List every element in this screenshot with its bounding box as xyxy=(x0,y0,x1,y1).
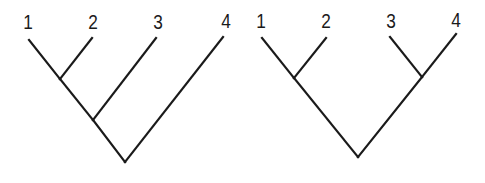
right-tree-taxon-label-4: 4 xyxy=(451,9,461,30)
right-tree-taxon-label-3: 3 xyxy=(386,10,396,31)
tree-lines-canvas xyxy=(0,0,485,183)
right-tree-branch-tip1-n12 xyxy=(294,38,326,78)
left-tree-taxon-label-1: 1 xyxy=(23,11,33,32)
right-tree-branch-n12-root xyxy=(294,78,358,157)
right-tree-branches xyxy=(262,34,456,157)
right-tree-branch-tip0-n12 xyxy=(262,38,294,78)
left-tree-branch-tip0-n12 xyxy=(29,40,60,79)
left-tree-taxon-label-3: 3 xyxy=(153,11,163,32)
cladogram-figure: 1 2 3 4 1 2 3 4 xyxy=(0,0,485,183)
left-tree-branch-tip1-n12 xyxy=(60,38,92,79)
right-tree-branch-tip3-n34 xyxy=(422,34,456,77)
left-tree-branch-n12-n123 xyxy=(60,79,93,120)
left-tree-taxon-label-2: 2 xyxy=(88,11,98,32)
right-tree-taxon-label-1: 1 xyxy=(256,10,266,31)
right-tree-branch-n34-root xyxy=(358,77,422,157)
right-tree-branch-tip2-n34 xyxy=(390,37,422,77)
left-tree-taxon-label-4: 4 xyxy=(221,10,231,31)
left-tree-branch-tip3-root xyxy=(125,37,223,162)
right-tree-taxon-label-2: 2 xyxy=(321,10,331,31)
left-tree-branches xyxy=(29,37,223,162)
left-tree-branch-tip2-n123 xyxy=(93,38,156,120)
left-tree-branch-n123-root xyxy=(93,120,125,162)
